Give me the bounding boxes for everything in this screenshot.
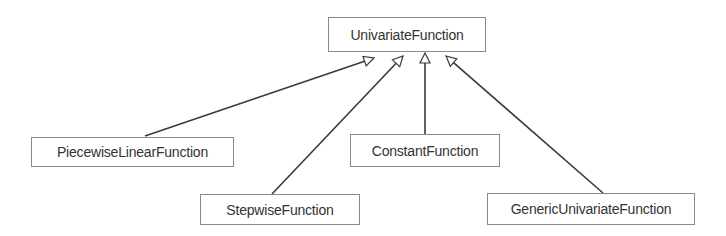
- class-box-generic-univariate-function: GenericUnivariateFunction: [487, 193, 695, 225]
- class-name: ConstantFunction: [372, 143, 479, 159]
- class-diagram: UnivariateFunction PiecewiseLinearFuncti…: [0, 0, 726, 236]
- class-box-constant-function: ConstantFunction: [350, 134, 500, 167]
- class-box-univariate-function: UnivariateFunction: [328, 17, 486, 52]
- hollow-arrowhead-icon: [363, 56, 374, 65]
- inheritance-line: [454, 63, 603, 193]
- class-name: GenericUnivariateFunction: [511, 201, 672, 217]
- hollow-arrowhead-icon: [420, 53, 430, 63]
- class-name: StepwiseFunction: [226, 202, 333, 218]
- class-box-piecewise-linear-function: PiecewiseLinearFunction: [31, 137, 234, 167]
- inheritance-line: [145, 61, 365, 136]
- inheritance-line: [272, 63, 396, 194]
- class-box-stepwise-function: StepwiseFunction: [200, 194, 360, 225]
- class-name: UnivariateFunction: [350, 27, 463, 43]
- class-name: PiecewiseLinearFunction: [57, 144, 208, 160]
